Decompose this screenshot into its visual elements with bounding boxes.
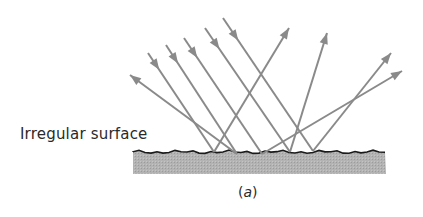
surface-label: Irregular surface xyxy=(20,125,148,143)
reflected-ray-5 xyxy=(313,53,391,151)
arrowhead-icon xyxy=(188,46,198,57)
arrowhead-icon xyxy=(130,75,141,85)
arrowhead-icon xyxy=(280,28,289,40)
incident-ray-5 xyxy=(223,18,313,151)
diagram-canvas xyxy=(0,0,423,217)
arrowhead-icon xyxy=(229,29,239,40)
arrowhead-icon xyxy=(210,38,220,49)
diffuse-reflection-diagram: Irregular surface (a) xyxy=(0,0,423,217)
reflected-ray-4 xyxy=(290,33,328,152)
arrowhead-icon xyxy=(150,58,160,69)
caption-letter: a xyxy=(243,184,252,200)
arrowhead-icon xyxy=(320,33,328,45)
caption-paren-close: ) xyxy=(252,184,257,200)
figure-caption: (a) xyxy=(238,184,258,200)
arrowhead-icon xyxy=(390,71,402,80)
arrowhead-icon xyxy=(169,52,179,64)
